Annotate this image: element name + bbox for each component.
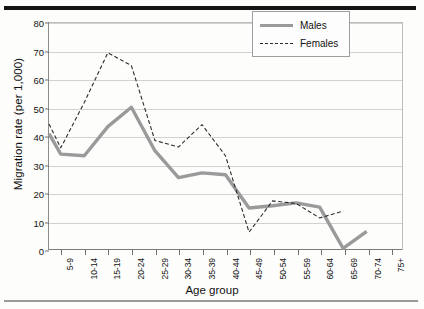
x-tick-mark [321,250,322,255]
x-tick-mark [250,250,251,255]
legend-entry-males: Males [260,20,327,31]
chart: Migration rate (per 1,000) Age group 010… [0,0,424,309]
x-tick-mark [179,250,180,255]
x-tick-mark [156,250,157,255]
series-line-males [49,107,367,248]
x-tick-label: 70-74 [373,258,383,279]
x-tick-mark [345,250,346,255]
x-axis-title: Age group [0,284,424,296]
x-tick-label: 40-44 [231,258,241,279]
x-tick-label: 35-39 [207,258,217,279]
y-tick-mark [45,251,49,252]
y-axis-title: Migration rate (per 1,000) [12,14,24,234]
x-tick-label: 5-9 [65,258,75,270]
figure-container: Migration rate (per 1,000) Age group 010… [0,0,424,309]
x-tick-label: 55-59 [302,258,312,279]
x-tick-mark [298,250,299,255]
x-tick-label: 75+ [396,258,406,272]
x-tick-mark [203,250,204,255]
x-tick-mark [392,250,393,255]
series-lines [49,23,402,250]
x-tick-mark [227,250,228,255]
x-tick-mark [132,250,133,255]
legend-swatch-males-icon [260,20,293,31]
x-tick-label: 65-69 [349,258,359,279]
x-tick-label: 15-19 [112,258,122,279]
x-tick-mark [369,250,370,255]
x-tick-label: 60-64 [325,258,335,279]
legend-swatch-females-icon [260,38,293,49]
x-tick-label: 20-24 [136,258,146,279]
y-tick-label: 0 [39,246,44,257]
y-tick-label: 60 [33,75,44,86]
x-tick-label: 30-34 [183,258,193,279]
x-tick-mark [85,250,86,255]
legend-entry-females: Females [260,38,338,49]
x-tick-mark [108,250,109,255]
y-tick-label: 10 [33,217,44,228]
x-tick-mark [61,250,62,255]
x-tick-mark [274,250,275,255]
legend: Males Females [252,11,350,57]
y-tick-label: 20 [33,189,44,200]
x-tick-label: 45-49 [254,258,264,279]
x-tick-label: 10-14 [89,258,99,279]
y-tick-label: 30 [33,160,44,171]
y-tick-label: 70 [33,46,44,57]
y-tick-label: 50 [33,103,44,114]
x-tick-label: 50-54 [278,258,288,279]
x-tick-label: 25-29 [160,258,170,279]
y-tick-label: 80 [33,18,44,29]
legend-label-females: Females [300,39,338,49]
legend-label-males: Males [300,21,327,31]
y-tick-label: 40 [33,132,44,143]
